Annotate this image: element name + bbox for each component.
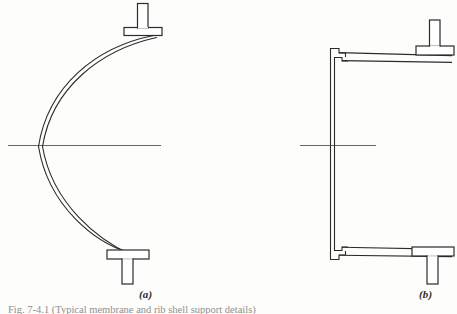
panel-b-label: (b) bbox=[419, 288, 432, 300]
panel-b-bottom-tee-support bbox=[412, 247, 454, 284]
panel-a-group bbox=[8, 4, 162, 285]
panel-a-top-tee-flange bbox=[124, 28, 162, 36]
panel-b-top-member-lower-edge bbox=[342, 61, 452, 63]
panel-a-top-tee-support bbox=[124, 4, 162, 36]
panel-b-bottom-tee-flange bbox=[412, 247, 454, 256]
panel-b-top-tee-support bbox=[416, 20, 454, 55]
panel-a-bottom-tee-web bbox=[122, 259, 133, 284]
panel-b-bottom-tee-web bbox=[427, 256, 438, 284]
figure-caption: Fig. 7-4.1 (Typical membrane and rib she… bbox=[8, 303, 256, 314]
panel-a-bottom-tee-flange bbox=[107, 250, 149, 259]
panel-a-bottom-tee-support bbox=[107, 250, 149, 284]
panel-a-shell-outer-edge bbox=[39, 36, 154, 253]
panel-a-top-tee-web bbox=[138, 4, 149, 29]
panel-b-top-tee-web bbox=[430, 20, 441, 46]
panel-b-top-tee-flange bbox=[416, 46, 454, 55]
panel-b-group bbox=[300, 20, 454, 284]
panel-a-shell-inner-edge bbox=[43, 38, 157, 255]
panel-a-label: (a) bbox=[139, 288, 152, 300]
panel-b-bottom-stepped-corner-inner bbox=[335, 246, 349, 251]
panel-b-top-stepped-corner-inner bbox=[335, 58, 349, 63]
figure-drawing-canvas bbox=[0, 0, 457, 314]
